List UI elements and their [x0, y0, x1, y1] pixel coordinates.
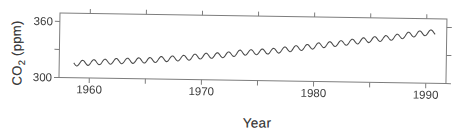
keeling-curve-figure: 1960197019801990300360 CO2 (ppm) Year	[0, 0, 461, 139]
plot-frame	[59, 13, 447, 84]
x-tick-label-1960: 1960	[76, 83, 102, 95]
x-axis-title: Year	[243, 115, 272, 130]
x-tick-label-1980: 1980	[301, 87, 327, 99]
x-tick-label-1970: 1970	[188, 85, 214, 97]
y-tick-label-360: 360	[34, 15, 53, 27]
y-axis-title-units: (ppm)	[9, 20, 24, 59]
x-tick-label-1990: 1990	[413, 89, 439, 101]
y-axis-title-subscript: 2	[16, 60, 27, 66]
y-tick-label-300: 300	[33, 71, 52, 83]
y-axis-title-text: CO	[9, 65, 24, 85]
plot-area: 1960197019801990300360	[33, 8, 452, 101]
co2-chart: 1960197019801990300360	[0, 0, 461, 139]
y-axis-title: CO2 (ppm)	[9, 20, 27, 85]
co2-curve	[74, 24, 435, 71]
